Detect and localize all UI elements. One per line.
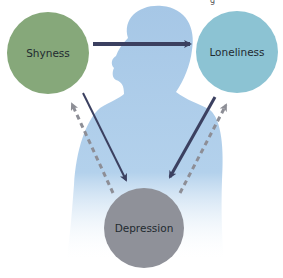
diagram-canvas: g Shyness Loneliness Depression xyxy=(0,0,283,278)
node-label-depression: Depression xyxy=(115,222,174,234)
node-label-loneliness: Loneliness xyxy=(209,46,264,58)
node-label-shyness: Shyness xyxy=(26,47,70,59)
node-depression: Depression xyxy=(104,188,184,268)
node-loneliness: Loneliness xyxy=(196,11,278,93)
node-shyness: Shyness xyxy=(7,12,89,94)
cropped-text-fragment: g xyxy=(210,0,215,5)
